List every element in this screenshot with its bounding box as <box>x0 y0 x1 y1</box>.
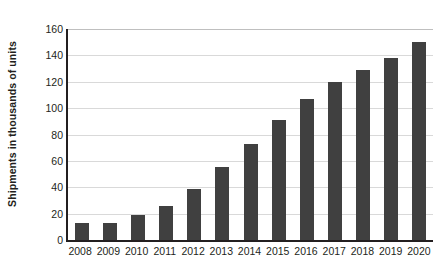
bar-slot <box>180 29 208 240</box>
x-tick-label-2009: 2009 <box>94 245 122 257</box>
bar-slot <box>293 29 321 240</box>
y-tick-label: 100 <box>45 102 63 114</box>
bar-slot <box>265 29 293 240</box>
y-axis-title-label: Shipments in thousands of units <box>6 41 18 207</box>
y-tick-label: 0 <box>57 234 63 246</box>
x-tick-label-2008: 2008 <box>66 245 94 257</box>
y-tick-label: 140 <box>45 49 63 61</box>
y-tick-label: 160 <box>45 23 63 35</box>
bar-2015[interactable] <box>272 120 286 240</box>
bar-slot <box>152 29 180 240</box>
bar-2009[interactable] <box>103 223 117 240</box>
bar-2017[interactable] <box>328 82 342 240</box>
x-tick-label-2020: 2020 <box>405 245 433 257</box>
bar-2011[interactable] <box>159 206 173 240</box>
plot-area: 020406080100120140160 <box>66 29 433 242</box>
y-axis-title: Shipments in thousands of units <box>0 0 24 248</box>
y-tick-label: 40 <box>51 181 63 193</box>
x-tick-label-2010: 2010 <box>122 245 150 257</box>
y-tick-label: 120 <box>45 76 63 88</box>
x-tick-label-2016: 2016 <box>292 245 320 257</box>
bar-slot <box>68 29 96 240</box>
x-tick-label-2018: 2018 <box>348 245 376 257</box>
x-tick-label-2015: 2015 <box>264 245 292 257</box>
x-tick-label-2011: 2011 <box>151 245 179 257</box>
y-tick-label: 20 <box>51 208 63 220</box>
y-tick-label: 60 <box>51 155 63 167</box>
x-tick-label-2012: 2012 <box>179 245 207 257</box>
bar-2019[interactable] <box>384 58 398 240</box>
x-tick-label-2019: 2019 <box>377 245 405 257</box>
bar-2010[interactable] <box>131 215 145 240</box>
x-tick-label-2013: 2013 <box>207 245 235 257</box>
bar-2008[interactable] <box>75 223 89 240</box>
x-tick-label-2014: 2014 <box>235 245 263 257</box>
bar-slot <box>124 29 152 240</box>
bar-2018[interactable] <box>356 70 370 240</box>
bar-slot <box>349 29 377 240</box>
bar-slot <box>236 29 264 240</box>
bar-2016[interactable] <box>300 99 314 240</box>
bar-2014[interactable] <box>244 144 258 240</box>
bar-2012[interactable] <box>187 189 201 240</box>
bars-layer <box>68 29 433 240</box>
bar-slot <box>405 29 433 240</box>
bar-slot <box>208 29 236 240</box>
y-tick-label: 80 <box>51 129 63 141</box>
bar-slot <box>96 29 124 240</box>
bar-chart: Shipments in thousands of units 02040608… <box>0 0 441 260</box>
x-axis-labels: 2008200920102011201220132014201520162017… <box>66 245 433 257</box>
bar-slot <box>377 29 405 240</box>
bar-2020[interactable] <box>412 42 426 240</box>
x-tick-label-2017: 2017 <box>320 245 348 257</box>
bar-slot <box>321 29 349 240</box>
bar-2013[interactable] <box>215 167 229 240</box>
